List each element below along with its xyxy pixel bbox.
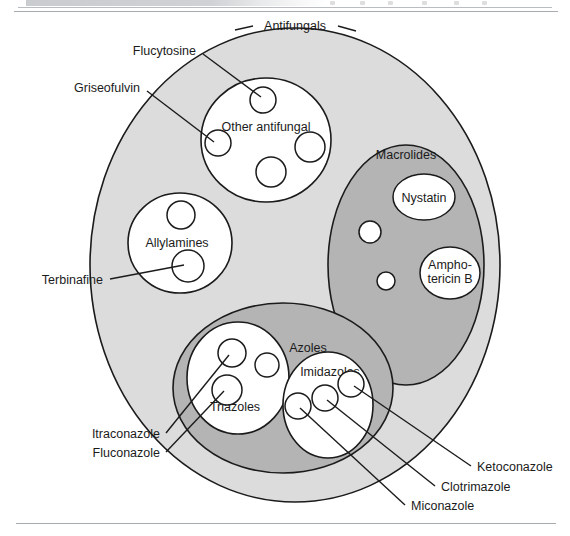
set-azoles[interactable]: Azoles Triazoles Imidazoles	[173, 303, 393, 473]
callout-label-clotrimazole: Clotrimazole	[441, 480, 511, 494]
set-imidazoles[interactable]: Imidazoles	[283, 352, 373, 458]
callout-label-ketoconazole: Ketoconazole	[477, 460, 553, 474]
callout-label-miconazole: Miconazole	[411, 499, 474, 513]
other-antifungal-unlabeled-member-1[interactable]	[256, 157, 286, 187]
other-antifungal-unlabeled-member-2[interactable]	[295, 132, 325, 162]
triazoles-boundary[interactable]	[187, 322, 289, 434]
set-other-antifungal[interactable]: Other antifungal	[201, 78, 331, 202]
triazoles-unlabeled-member[interactable]	[255, 353, 279, 377]
drug-fluconazole-circle[interactable]	[212, 375, 242, 405]
drug-clotrimazole-circle[interactable]	[312, 385, 338, 411]
set-triazoles[interactable]: Triazoles	[187, 322, 289, 434]
callout-label-terbinafine: Terbinafine	[42, 273, 103, 287]
macrolides-label: Macrolides	[376, 148, 436, 162]
antifungals-diagram: Antifungals Macrolides Nystatin Ampho- t…	[0, 0, 570, 536]
drug-amphotericin-b-label-line1: Ampho-	[428, 258, 472, 272]
macrolides-unlabeled-member-1[interactable]	[359, 221, 381, 243]
drug-griseofulvin-circle[interactable]	[205, 130, 231, 156]
set-allylamines[interactable]: Allylamines	[128, 193, 232, 293]
other-antifungal-label: Other antifungal	[222, 120, 311, 134]
allylamines-unlabeled-member[interactable]	[167, 201, 195, 229]
allylamines-label: Allylamines	[145, 236, 208, 250]
callout-label-itraconazole: Itraconazole	[92, 427, 160, 441]
drug-ketoconazole-circle[interactable]	[338, 371, 364, 397]
antifungals-label-tick-left	[235, 26, 253, 30]
macrolides-unlabeled-member-2[interactable]	[377, 272, 395, 290]
page-root: Antifungals Macrolides Nystatin Ampho- t…	[0, 0, 570, 536]
callout-label-fluconazole: Fluconazole	[93, 446, 160, 460]
drug-amphotericin-b-label-line2: tericin B	[427, 272, 472, 286]
antifungals-label: Antifungals	[264, 19, 326, 33]
callout-label-flucytosine: Flucytosine	[133, 44, 196, 58]
antifungals-label-tick-right	[338, 26, 356, 31]
drug-nystatin-label: Nystatin	[401, 191, 446, 205]
callout-label-griseofulvin: Griseofulvin	[74, 81, 140, 95]
